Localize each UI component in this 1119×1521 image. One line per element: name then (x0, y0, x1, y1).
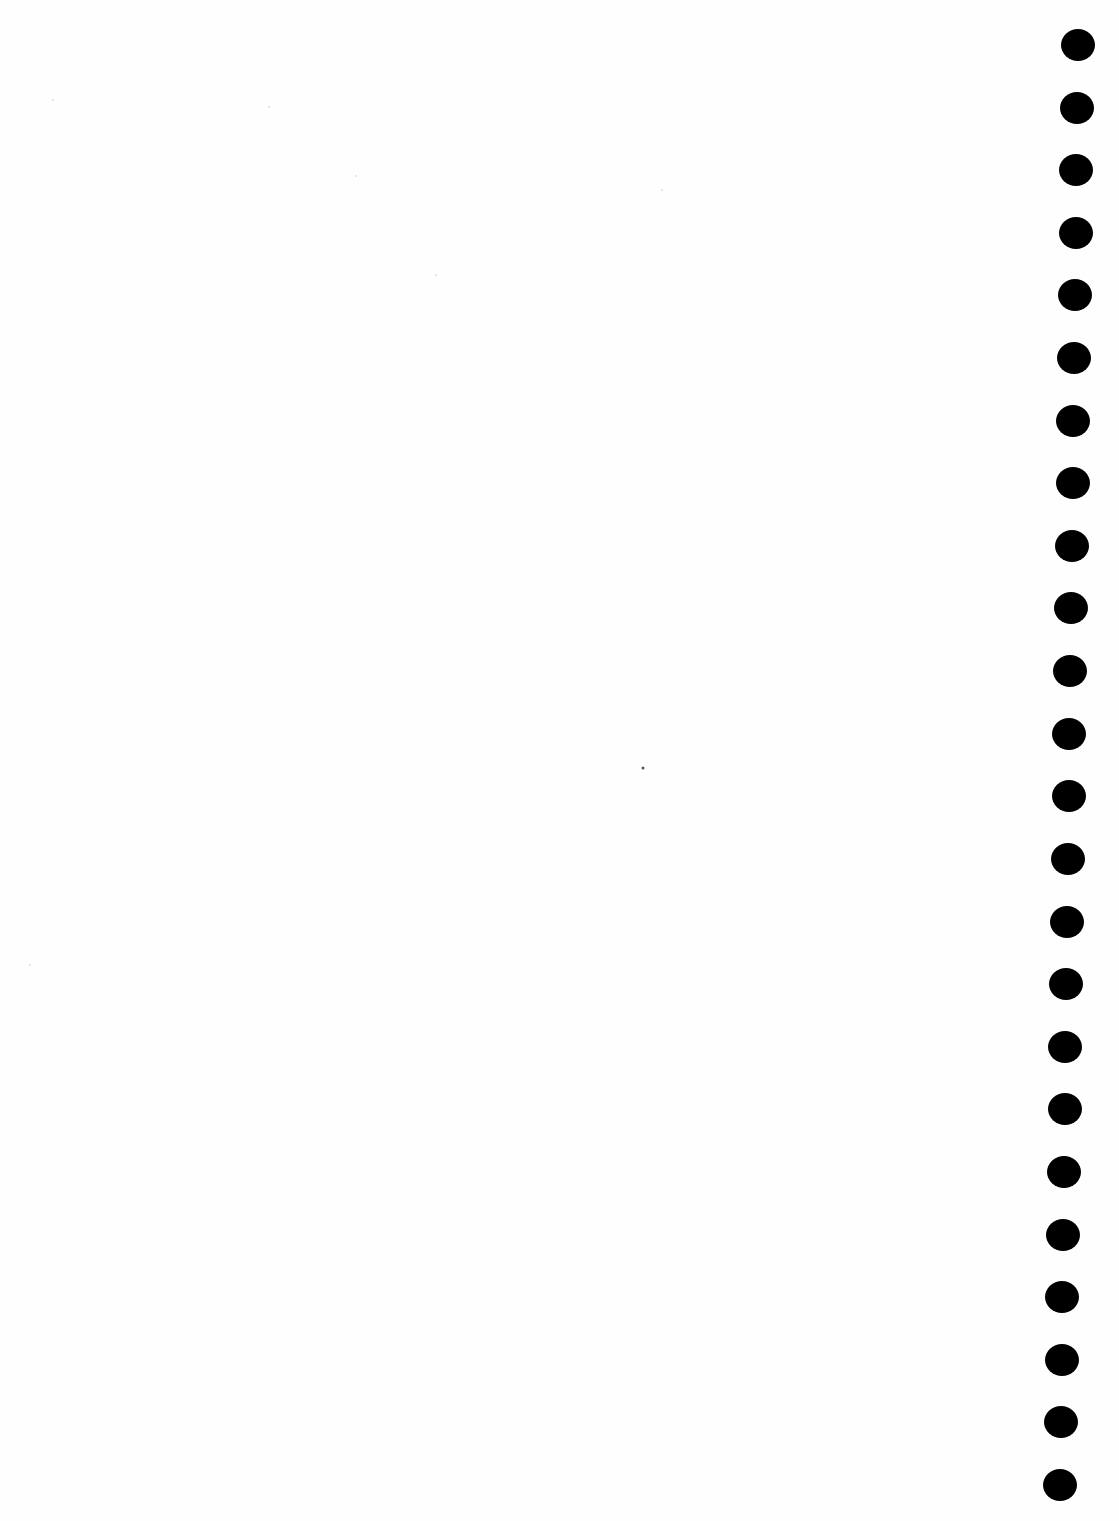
punch-hole (1046, 1219, 1080, 1251)
punch-hole (1044, 1406, 1078, 1438)
punch-hole (1043, 1469, 1077, 1501)
scan-speck (435, 274, 437, 276)
punch-hole (1047, 1156, 1081, 1188)
punch-hole (1059, 217, 1093, 249)
punch-hole (1045, 1344, 1079, 1376)
punch-hole (1049, 968, 1083, 1000)
punch-hole (1056, 405, 1090, 437)
scan-speck (268, 106, 270, 108)
punch-hole (1050, 906, 1084, 938)
scan-speck (661, 189, 663, 191)
punch-hole (1057, 342, 1091, 374)
punch-hole (1045, 1281, 1079, 1313)
punch-hole (1058, 279, 1092, 311)
punch-hole (1048, 1093, 1082, 1125)
punch-hole (1053, 655, 1087, 687)
scan-speck (29, 964, 31, 966)
punch-hole (1056, 467, 1090, 499)
punch-hole (1052, 780, 1086, 812)
punch-hole (1055, 530, 1089, 562)
punch-hole (1048, 1031, 1082, 1063)
punch-hole (1060, 92, 1094, 124)
punch-hole (1059, 154, 1093, 186)
scan-speck (642, 767, 645, 770)
blank-page (0, 0, 1119, 1521)
punch-hole (1051, 843, 1085, 875)
punch-hole (1061, 29, 1095, 61)
scan-speck (355, 175, 357, 177)
scan-speck (52, 99, 54, 101)
punch-hole (1054, 592, 1088, 624)
punch-hole (1052, 718, 1086, 750)
